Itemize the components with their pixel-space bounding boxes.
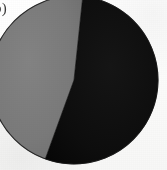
pie-chart: [0, 0, 160, 166]
figure-container: b): [0, 0, 167, 170]
pie-chart-svg: [0, 0, 160, 166]
subfigure-label: b): [0, 1, 7, 16]
